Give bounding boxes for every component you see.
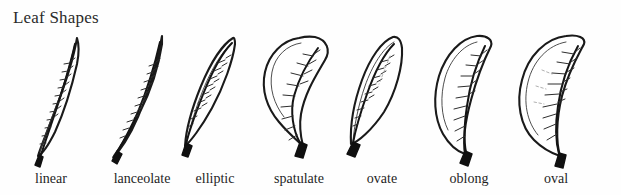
leaf-illustration-spatulate — [255, 30, 343, 170]
leaf-illustration-oval — [512, 30, 600, 170]
leaf-illustration-row — [0, 30, 621, 170]
leaf-illustration-ovate — [338, 30, 426, 170]
leaf-shapes-figure: Leaf Shapes — [0, 0, 621, 195]
leaf-label-row: linear lanceolate elliptic spatulate ova… — [0, 170, 621, 195]
leaf-label-oval: oval — [501, 170, 611, 188]
leaf-illustration-linear — [8, 30, 96, 170]
figure-title: Leaf Shapes — [13, 7, 99, 29]
leaf-illustration-oblong — [425, 30, 513, 170]
leaf-illustration-elliptic — [171, 30, 259, 170]
